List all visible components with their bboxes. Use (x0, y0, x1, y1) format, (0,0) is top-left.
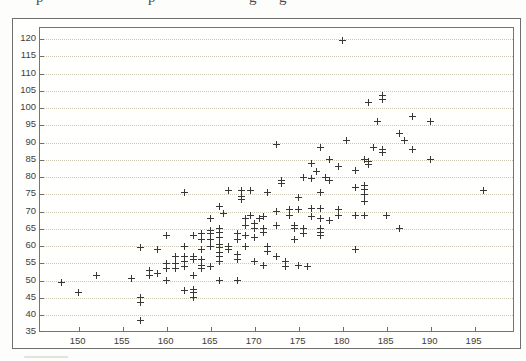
data-point-marker (207, 263, 214, 270)
y-axis-tick-label: 40 (14, 309, 36, 319)
data-point-marker (216, 277, 223, 284)
data-point-marker (326, 217, 333, 224)
data-point-marker (361, 212, 368, 219)
y-gridline (40, 281, 513, 282)
text-descender-fragment: p (36, 0, 44, 6)
y-tick-mark (40, 108, 44, 109)
x-tick-mark (343, 327, 344, 331)
x-tick-mark (299, 327, 300, 331)
data-point-marker (198, 246, 205, 253)
data-point-marker (198, 265, 205, 272)
y-axis-tick-label: 75 (14, 188, 36, 198)
x-tick-mark (79, 327, 80, 331)
data-point-marker (190, 272, 197, 279)
data-point-marker (207, 243, 214, 250)
y-gridline (40, 160, 513, 161)
y-gridline (40, 74, 513, 75)
data-point-marker (216, 258, 223, 265)
data-point-marker (251, 258, 258, 265)
y-gridline (40, 246, 513, 247)
x-axis-tick-label: 190 (417, 336, 443, 346)
data-point-marker (343, 137, 350, 144)
data-point-marker (480, 187, 487, 194)
data-point-marker (234, 277, 241, 284)
y-axis-tick-label: 115 (14, 50, 36, 60)
data-point-marker (181, 189, 188, 196)
y-tick-mark (40, 125, 44, 126)
y-tick-mark (40, 143, 44, 144)
data-point-marker (379, 149, 386, 156)
y-gridline (40, 56, 513, 57)
data-point-marker (181, 243, 188, 250)
y-axis-tick-label: 50 (14, 275, 36, 285)
x-tick-mark (167, 327, 168, 331)
data-point-marker (352, 246, 359, 253)
data-point-marker (295, 206, 302, 213)
x-tick-mark (431, 327, 432, 331)
y-axis-tick-label: 100 (14, 102, 36, 112)
y-axis-tick-label: 55 (14, 257, 36, 267)
data-point-marker (238, 196, 245, 203)
data-point-marker (361, 198, 368, 205)
data-point-marker (374, 118, 381, 125)
data-point-marker (172, 265, 179, 272)
data-point-marker (335, 212, 342, 219)
data-point-marker (317, 232, 324, 239)
data-point-marker (137, 299, 144, 306)
y-axis-tick-label: 85 (14, 154, 36, 164)
clipped-paragraph-text: p p g g (0, 0, 526, 6)
scatter-plot-area (39, 27, 514, 332)
data-point-marker (163, 265, 170, 272)
y-tick-mark (40, 298, 44, 299)
data-point-marker (352, 167, 359, 174)
y-axis-tick-label: 80 (14, 171, 36, 181)
y-tick-mark (40, 39, 44, 40)
data-point-marker (234, 256, 241, 263)
data-point-marker (308, 205, 315, 212)
data-point-marker (295, 262, 302, 269)
data-point-marker (242, 243, 249, 250)
data-point-marker (190, 256, 197, 263)
data-point-marker (251, 225, 258, 232)
y-gridline (40, 263, 513, 264)
x-tick-mark (255, 327, 256, 331)
text-descender-fragment: g (279, 0, 287, 6)
data-point-marker (427, 156, 434, 163)
data-point-marker (308, 175, 315, 182)
data-point-marker (370, 144, 377, 151)
data-point-marker (409, 113, 416, 120)
data-point-marker (317, 144, 324, 151)
x-tick-mark (211, 327, 212, 331)
data-point-marker (317, 215, 324, 222)
y-gridline (40, 177, 513, 178)
y-gridline (40, 229, 513, 230)
figure-box: 3540455055606570758085909510010511011512… (12, 18, 521, 349)
data-point-marker (190, 294, 197, 301)
data-point-marker (313, 168, 320, 175)
data-point-marker (273, 141, 280, 148)
x-axis-tick-label: 195 (461, 336, 487, 346)
y-axis-tick-label: 35 (14, 326, 36, 336)
data-point-marker (181, 287, 188, 294)
y-axis-tick-label: 90 (14, 137, 36, 147)
y-tick-mark (40, 229, 44, 230)
y-tick-mark (40, 315, 44, 316)
data-point-marker (308, 160, 315, 167)
data-point-marker (291, 225, 298, 232)
x-axis-tick-label: 170 (241, 336, 267, 346)
data-point-marker (317, 189, 324, 196)
y-axis-tick-label: 70 (14, 206, 36, 216)
data-point-marker (291, 236, 298, 243)
x-axis-tick-label: 175 (285, 336, 311, 346)
data-point-marker (300, 230, 307, 237)
y-gridline (40, 39, 513, 40)
data-point-marker (163, 277, 170, 284)
y-tick-mark (40, 194, 44, 195)
data-point-marker (365, 161, 372, 168)
text-descender-fragment: g (249, 0, 257, 6)
data-point-marker (365, 99, 372, 106)
data-point-marker (137, 244, 144, 251)
data-point-marker (260, 229, 267, 236)
data-point-marker (300, 174, 307, 181)
data-point-marker (220, 210, 227, 217)
